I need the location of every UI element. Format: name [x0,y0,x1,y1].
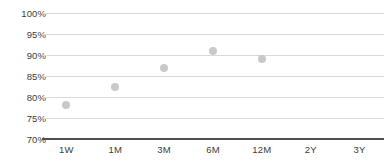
xtick-label-2y: 2Y [305,145,317,155]
x-axis-line [42,138,384,140]
xtick-label-3m: 3M [157,145,171,155]
data-point-12m [258,55,266,63]
gridline-80 [42,97,384,98]
xtick-label-1m: 1M [108,145,122,155]
xtick-label-1w: 1W [59,145,74,155]
ytick-label-75: 75% [6,114,46,124]
gridline-90 [42,55,384,56]
gridline-75 [42,118,384,119]
scatter-chart: 100% 95% 90% 85% 80% 75% 70% 1W 1M 3M 6M… [0,0,390,165]
gridline-85 [42,76,384,77]
plot-area [42,13,384,139]
ytick-label-85: 85% [6,72,46,82]
data-point-6m [209,47,217,55]
ytick-label-90: 90% [6,51,46,61]
xtick-label-3y: 3Y [354,145,366,155]
xtick-label-6m: 6M [206,145,220,155]
xtick-label-12m: 12M [252,145,271,155]
data-point-1m [111,83,119,91]
ytick-label-100: 100% [6,9,46,19]
gridline-95 [42,34,384,35]
ytick-label-70: 70% [6,135,46,145]
ytick-label-95: 95% [6,30,46,40]
ytick-label-80: 80% [6,93,46,103]
data-point-3m [160,64,168,72]
data-point-1w [62,101,70,109]
gridline-100 [42,13,384,14]
